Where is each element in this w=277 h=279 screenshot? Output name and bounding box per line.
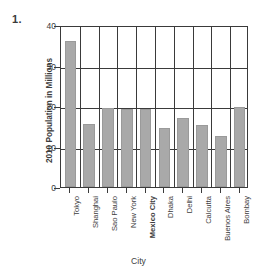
- x-tick-label: Tokyo: [72, 196, 81, 216]
- plot-inner: [61, 27, 247, 187]
- y-tick-label: 40: [36, 21, 56, 31]
- y-tick-mark: [54, 107, 60, 108]
- gridline-vertical: [211, 27, 212, 187]
- gridline-vertical: [99, 27, 100, 187]
- x-tick-label: New York: [129, 196, 138, 228]
- gridline-vertical: [174, 27, 175, 187]
- bar: [140, 109, 152, 187]
- bar-chart-figure: 1. 2010 Population in Millions 010203040…: [0, 0, 277, 279]
- x-tick-mark: [107, 188, 108, 193]
- y-tick-mark: [54, 148, 60, 149]
- y-axis-tick-labels: 010203040: [34, 0, 56, 279]
- bar: [177, 118, 189, 187]
- gridline-horizontal: [61, 68, 247, 69]
- bar: [215, 136, 227, 187]
- x-tick-mark: [201, 188, 202, 193]
- gridline-vertical: [193, 27, 194, 187]
- x-tick-mark: [163, 188, 164, 193]
- bar: [102, 108, 114, 187]
- gridline-vertical: [80, 27, 81, 187]
- x-tick-label: Calcutta: [204, 196, 213, 224]
- y-tick-label: 10: [36, 143, 56, 153]
- y-tick-label: 30: [36, 62, 56, 72]
- problem-number: 1.: [12, 13, 22, 25]
- x-tick-label: Buenos Aires: [223, 196, 232, 241]
- bar: [234, 107, 246, 187]
- gridline-horizontal: [61, 108, 247, 109]
- x-tick-label: Sao Paulo: [110, 196, 119, 231]
- bar: [65, 41, 77, 187]
- bar: [196, 125, 208, 187]
- gridline-vertical: [117, 27, 118, 187]
- y-tick-mark: [54, 26, 60, 27]
- y-tick-mark: [54, 188, 60, 189]
- bar: [159, 128, 171, 187]
- x-tick-mark: [239, 188, 240, 193]
- x-tick-label: Mexico City: [148, 196, 157, 238]
- x-tick-mark: [88, 188, 89, 193]
- gridline-vertical: [155, 27, 156, 187]
- x-tick-label: Bombay: [242, 196, 251, 224]
- y-tick-mark: [54, 67, 60, 68]
- x-tick-mark: [182, 188, 183, 193]
- bar: [121, 109, 133, 187]
- x-tick-label: Delhi: [185, 196, 194, 213]
- x-tick-label: Dhaka: [166, 196, 175, 218]
- x-tick-mark: [126, 188, 127, 193]
- gridline-vertical: [230, 27, 231, 187]
- x-tick-mark: [145, 188, 146, 193]
- plot-area: [60, 26, 248, 188]
- x-tick-label: Shanghai: [91, 196, 100, 228]
- x-axis-title: City: [0, 256, 277, 266]
- bar: [83, 124, 95, 187]
- gridline-vertical: [136, 27, 137, 187]
- y-tick-label: 0: [36, 183, 56, 193]
- y-tick-label: 20: [36, 102, 56, 112]
- x-tick-mark: [220, 188, 221, 193]
- x-tick-mark: [69, 188, 70, 193]
